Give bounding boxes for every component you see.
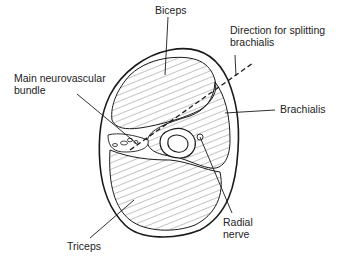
arm-cross-section-diagram: Biceps Direction for splitting brachiali… [0, 0, 345, 261]
leader-triceps [90, 200, 134, 238]
label-direction-for-splitting: Direction for splitting brachialis [230, 24, 325, 48]
label-radial-nerve: Radial nerve [223, 216, 253, 240]
leader-brachialis [225, 110, 275, 113]
label-main-neurovascular-bundle: Main neurovascular bundle [14, 72, 106, 96]
label-triceps: Triceps [67, 240, 101, 252]
label-biceps: Biceps [155, 4, 187, 16]
label-brachialis: Brachialis [280, 103, 326, 115]
vessel [113, 144, 118, 147]
vessel [121, 141, 128, 145]
leader-direction [235, 55, 236, 76]
humerus-marrow [168, 135, 188, 152]
